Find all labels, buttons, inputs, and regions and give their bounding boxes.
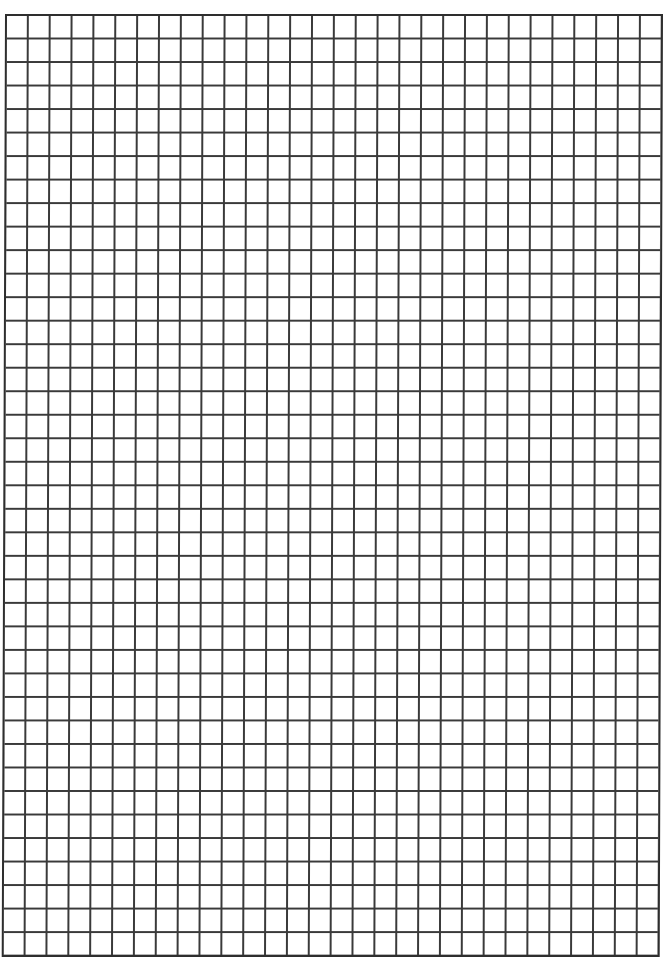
- graph-paper-sheet: [0, 0, 668, 959]
- square-grid: [2, 14, 663, 957]
